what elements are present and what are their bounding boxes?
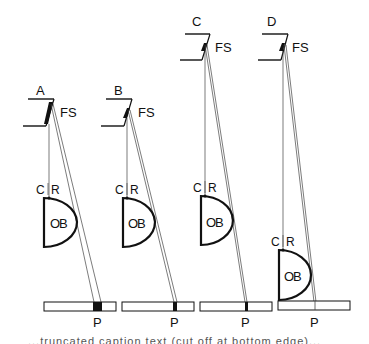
slide bbox=[122, 302, 194, 311]
panel-label: D bbox=[267, 14, 276, 29]
field-stop-label: FS bbox=[292, 40, 309, 55]
panel-c: C FS C R OB P bbox=[180, 14, 272, 330]
center-ray-label: C bbox=[271, 235, 280, 249]
slide bbox=[200, 302, 272, 311]
center-ray-label: C bbox=[193, 181, 202, 195]
projection-spot bbox=[93, 302, 102, 311]
panel-b: B FS C R OB P bbox=[101, 83, 194, 330]
panel-d: D FS C R OB P bbox=[258, 14, 350, 330]
projection-label: P bbox=[310, 315, 319, 330]
field-stop-label: FS bbox=[215, 40, 232, 55]
light-rays bbox=[49, 104, 101, 302]
center-ray-label: C bbox=[36, 183, 45, 197]
caption-text: ...truncated caption text (cut off at bo… bbox=[0, 336, 369, 344]
ray-label: R bbox=[208, 181, 217, 195]
light-rays bbox=[127, 110, 177, 302]
objective-label: OB bbox=[284, 269, 301, 284]
panel-label: B bbox=[114, 83, 123, 98]
projection-spot bbox=[245, 302, 248, 311]
objective-label: OB bbox=[50, 216, 67, 231]
panel-label: A bbox=[36, 83, 45, 98]
light-rays bbox=[283, 45, 316, 302]
panel-label: C bbox=[192, 14, 201, 29]
slide bbox=[278, 301, 350, 310]
light-rays bbox=[205, 45, 247, 302]
slide bbox=[44, 302, 116, 311]
objective-label: OB bbox=[128, 216, 145, 231]
panel-a: A FS C R OB P bbox=[23, 83, 116, 330]
ray-label: R bbox=[51, 183, 60, 197]
center-ray-label: C bbox=[115, 183, 124, 197]
figure-caption: ...truncated caption text (cut off at bo… bbox=[0, 336, 369, 344]
field-stop bbox=[23, 99, 54, 126]
field-stop-label: FS bbox=[60, 105, 77, 120]
field-stop bbox=[258, 34, 288, 60]
objective-label: OB bbox=[206, 215, 223, 230]
projection-label: P bbox=[241, 315, 250, 330]
projection-spot bbox=[173, 302, 177, 311]
optics-diagram: A FS C R OB P B bbox=[0, 0, 369, 344]
ray-label: R bbox=[130, 183, 139, 197]
projection-label: P bbox=[93, 315, 102, 330]
ray-label: R bbox=[286, 235, 295, 249]
field-stop-label: FS bbox=[138, 105, 155, 120]
projection-label: P bbox=[170, 315, 179, 330]
